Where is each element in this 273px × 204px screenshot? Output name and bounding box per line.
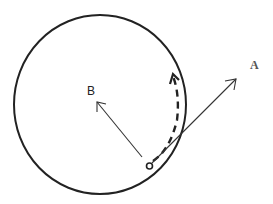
vector-a bbox=[152, 79, 236, 163]
label-a: A bbox=[250, 58, 259, 72]
vector-b bbox=[97, 102, 142, 157]
object-point bbox=[147, 163, 153, 169]
label-b: B bbox=[87, 84, 95, 98]
diagram-canvas: A B bbox=[0, 0, 273, 204]
circular-path bbox=[14, 15, 186, 194]
